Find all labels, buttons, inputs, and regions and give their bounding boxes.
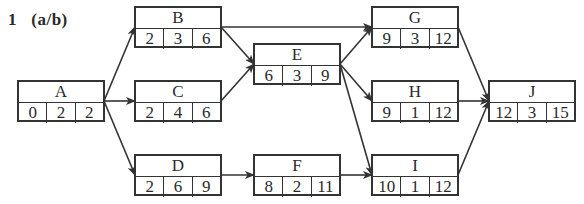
earliest-finish: 15 bbox=[547, 103, 574, 123]
earliest-start: 2 bbox=[136, 29, 164, 49]
earliest-start: 9 bbox=[373, 29, 401, 49]
earliest-finish: 12 bbox=[430, 177, 457, 197]
duration: 2 bbox=[47, 103, 75, 123]
earliest-start: 2 bbox=[136, 103, 164, 123]
activity-name: F bbox=[255, 156, 339, 177]
duration: 1 bbox=[401, 177, 429, 197]
earliest-finish: 12 bbox=[430, 103, 457, 123]
activity-name: E bbox=[255, 45, 339, 66]
activity-node-d: D 2 6 9 bbox=[134, 154, 222, 196]
activity-name: G bbox=[373, 8, 457, 29]
duration: 3 bbox=[164, 29, 192, 49]
earliest-finish: 6 bbox=[193, 29, 220, 49]
activity-name: A bbox=[19, 82, 103, 103]
duration: 4 bbox=[164, 103, 192, 123]
activity-node-e: E 6 3 9 bbox=[253, 43, 341, 85]
earliest-start: 2 bbox=[136, 177, 164, 197]
activity-name: H bbox=[373, 82, 457, 103]
earliest-start: 0 bbox=[19, 103, 47, 123]
activity-name: B bbox=[136, 8, 220, 29]
arrow-g-to-j bbox=[458, 27, 489, 101]
activity-node-b: B 2 3 6 bbox=[134, 6, 222, 48]
activity-node-a: A 0 2 2 bbox=[17, 80, 105, 122]
earliest-start: 10 bbox=[373, 177, 401, 197]
earliest-finish: 9 bbox=[312, 66, 339, 86]
arrow-a-to-d bbox=[104, 101, 135, 175]
arrow-a-to-b bbox=[104, 27, 135, 101]
arrow-e-to-i bbox=[340, 64, 372, 175]
activity-node-c: C 2 4 6 bbox=[134, 80, 222, 122]
duration: 1 bbox=[401, 103, 429, 123]
earliest-finish: 2 bbox=[76, 103, 103, 123]
earliest-finish: 12 bbox=[430, 29, 457, 49]
activity-node-h: H 9 1 12 bbox=[371, 80, 459, 122]
earliest-finish: 6 bbox=[193, 103, 220, 123]
activity-node-i: I 10 1 12 bbox=[371, 154, 459, 196]
duration: 2 bbox=[283, 177, 311, 197]
earliest-start: 6 bbox=[255, 66, 283, 86]
earliest-start: 9 bbox=[373, 103, 401, 123]
arrow-i-to-j bbox=[458, 101, 489, 175]
activity-node-g: G 9 3 12 bbox=[371, 6, 459, 48]
earliest-finish: 11 bbox=[312, 177, 339, 197]
arrow-b-to-e bbox=[221, 27, 254, 64]
earliest-start: 8 bbox=[255, 177, 283, 197]
activity-name: J bbox=[490, 82, 574, 103]
earliest-finish: 9 bbox=[193, 177, 220, 197]
duration: 3 bbox=[518, 103, 546, 123]
arrow-e-to-g bbox=[340, 27, 372, 64]
activity-name: I bbox=[373, 156, 457, 177]
activity-name: D bbox=[136, 156, 220, 177]
arrow-c-to-e bbox=[221, 64, 254, 101]
duration: 3 bbox=[283, 66, 311, 86]
duration: 6 bbox=[164, 177, 192, 197]
activity-node-f: F 8 2 11 bbox=[253, 154, 341, 196]
activity-node-j: J 12 3 15 bbox=[488, 80, 576, 122]
earliest-start: 12 bbox=[490, 103, 518, 123]
activity-name: C bbox=[136, 82, 220, 103]
duration: 3 bbox=[401, 29, 429, 49]
